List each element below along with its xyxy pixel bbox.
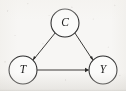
edge-t-to-y	[37, 68, 89, 73]
edge-c-to-y	[75, 33, 94, 61]
edge-group	[32, 33, 93, 72]
edge-c-to-t-line	[34, 33, 56, 60]
node-c-label: C	[61, 16, 69, 28]
node-t[interactable]: T	[9, 56, 37, 84]
edge-c-to-y-line	[75, 33, 93, 60]
dag-canvas: C T Y	[0, 0, 126, 91]
causal-dag-figure: C T Y	[0, 0, 126, 91]
node-c[interactable]: C	[51, 9, 79, 37]
node-group: C T Y	[9, 9, 117, 84]
node-y[interactable]: Y	[89, 56, 117, 84]
edge-c-to-t	[32, 33, 55, 61]
